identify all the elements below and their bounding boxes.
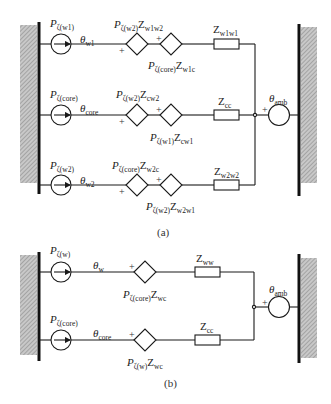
impedance-label: Zcc (200, 321, 213, 335)
dependent-source-icon (126, 33, 148, 55)
node-label: θcore (93, 328, 111, 342)
plus-sign: + (119, 46, 125, 56)
plus-sign: + (156, 105, 162, 115)
impedance-icon (214, 110, 239, 120)
dep-source-label: Pζ(core)Zwc (123, 289, 166, 303)
dep-source-label: Pζ(core)Zw2c (112, 160, 159, 174)
node-label: θw (93, 260, 104, 274)
dependent-source-icon (160, 104, 182, 126)
dep-source-label: Pζ(w2)Zw2w1 (146, 201, 195, 215)
plus-sign: + (129, 330, 135, 340)
plus-sign: + (262, 298, 268, 308)
impedance-label: Zcc (218, 96, 231, 110)
ambient-label: θamb (269, 284, 287, 298)
ambient-source-icon (269, 297, 290, 318)
node-label: θw1 (80, 34, 95, 48)
impedance-label: Zw2w2 (214, 166, 239, 180)
plus-sign: + (262, 105, 268, 115)
source-label: Pζ(w) (50, 245, 70, 259)
right-thermal-ground (301, 27, 317, 183)
dep-source-label: Pζ(w2)Zcw2 (116, 89, 159, 103)
caption-b: (b) (164, 377, 177, 389)
dep-source-label: Pζ(core)Zw1c (148, 60, 195, 74)
impedance-icon (214, 180, 239, 190)
row-core (39, 104, 299, 126)
ambient-label: θamb (269, 93, 287, 107)
junction-node (252, 305, 255, 308)
row-core (39, 329, 254, 351)
source-label: Pζ(core) (50, 89, 78, 103)
dependent-source-icon (134, 261, 156, 283)
caption-a: (a) (157, 226, 169, 238)
source-label: Pζ(w1) (50, 18, 74, 32)
dep-source-label: Pζ(w)Zwc (127, 357, 163, 371)
impedance-label: Zww (196, 253, 214, 267)
plus-sign: + (156, 175, 162, 185)
panel-b (20, 252, 317, 363)
node-label: θw2 (80, 175, 95, 189)
right-thermal-ground (301, 258, 317, 358)
source-label: Pζ(w2) (50, 160, 74, 174)
dependent-source-icon (126, 104, 148, 126)
plus-sign: + (156, 34, 162, 44)
impedance-icon (195, 267, 220, 277)
node-label: θcore (80, 103, 98, 117)
dep-source-label: Pζ(w2)Zw1w2 (114, 19, 163, 33)
plus-sign: + (119, 117, 125, 127)
dependent-source-icon (160, 33, 182, 55)
junction-node (253, 113, 256, 116)
plus-sign: + (119, 187, 125, 197)
dependent-source-icon (126, 174, 148, 196)
left-thermal-ground (20, 255, 37, 355)
dependent-source-icon (160, 174, 182, 196)
impedance-label: Zw1w1 (213, 24, 238, 38)
dependent-source-icon (134, 329, 156, 351)
dep-source-label: Pζ(w1)Zcw1 (150, 132, 193, 146)
impedance-icon (195, 335, 220, 345)
left-thermal-ground (20, 25, 37, 183)
plus-sign: + (129, 262, 135, 272)
ambient-source-icon (269, 105, 290, 126)
ambient-branch (252, 297, 299, 318)
impedance-icon (214, 39, 239, 49)
source-label: Pζ(core) (50, 314, 78, 328)
